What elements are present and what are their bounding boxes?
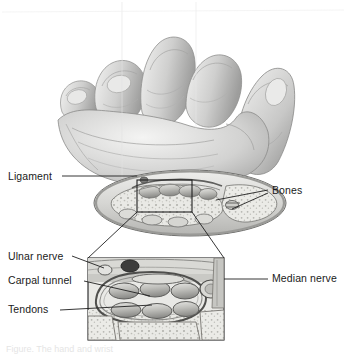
wrist-cross-section bbox=[94, 170, 286, 236]
label-ulnar-nerve: Ulnar nerve bbox=[8, 251, 63, 262]
magnified-inset bbox=[88, 258, 224, 340]
label-bones: Bones bbox=[272, 185, 302, 196]
label-median-nerve: Median nerve bbox=[272, 273, 337, 284]
label-tendons: Tendons bbox=[8, 304, 48, 315]
label-carpal-tunnel: Carpal tunnel bbox=[8, 275, 72, 286]
label-ligament: Ligament bbox=[8, 171, 52, 182]
figure-caption: Figure. The hand and wrist bbox=[6, 344, 113, 354]
hand-illustration bbox=[2, 2, 344, 189]
flexor-tendons-lower-row bbox=[111, 302, 199, 319]
